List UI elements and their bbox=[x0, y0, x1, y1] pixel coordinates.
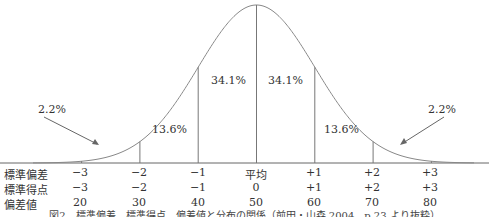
sd-value: −2 bbox=[131, 166, 147, 179]
sd-value: −1 bbox=[190, 166, 206, 179]
sd-value: +2 bbox=[364, 166, 380, 179]
normal-distribution-figure: 2.2% 2.2% 13.6% 34.1% 34.1% 13.6% 標準偏差 標… bbox=[0, 0, 489, 217]
row-label-sd: 標準偏差 bbox=[4, 166, 48, 182]
band-p1-p2-label: 13.6% bbox=[324, 123, 359, 136]
z-value: +2 bbox=[364, 181, 380, 194]
row-label-z: 標準得点 bbox=[4, 181, 48, 197]
z-value: −3 bbox=[72, 181, 88, 194]
z-value: −1 bbox=[190, 181, 206, 194]
figure-caption: 図2 標準偏差、標準得点、偏差値と分布の関係（前田・山森 2004、p.23 よ… bbox=[0, 207, 489, 217]
band-0-p1-label: 34.1% bbox=[268, 74, 303, 87]
sd-value: 平均 bbox=[245, 166, 267, 182]
sd-value: −3 bbox=[72, 166, 88, 179]
z-value: −2 bbox=[131, 181, 147, 194]
z-value: +3 bbox=[422, 181, 438, 194]
right-arrow-line bbox=[403, 117, 444, 143]
normal-curve bbox=[33, 5, 474, 163]
tail-right-label: 2.2% bbox=[428, 103, 456, 116]
band-m1-0-label: 34.1% bbox=[211, 74, 246, 87]
band-m2-m1-label: 13.6% bbox=[152, 123, 187, 136]
sd-lines bbox=[82, 5, 432, 163]
z-value: 0 bbox=[253, 181, 260, 194]
z-value: +1 bbox=[306, 181, 322, 194]
right-arrow-head-icon bbox=[400, 138, 407, 145]
sd-value: +1 bbox=[306, 166, 322, 179]
tail-left-label: 2.2% bbox=[38, 103, 66, 116]
left-arrow-line bbox=[44, 117, 97, 144]
sd-value: +3 bbox=[422, 166, 438, 179]
